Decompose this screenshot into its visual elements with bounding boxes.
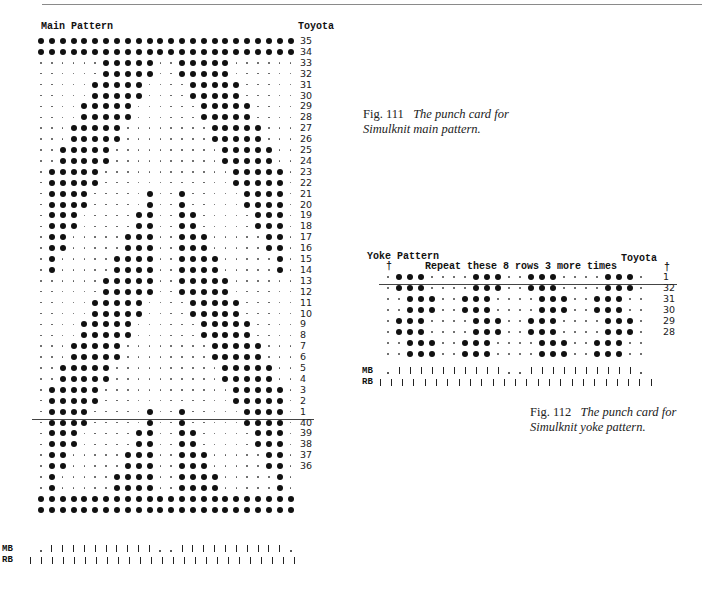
unpunched-position bbox=[69, 461, 79, 471]
unpunched-position bbox=[166, 123, 176, 133]
unpunched-position bbox=[242, 254, 252, 264]
unpunched-position bbox=[199, 374, 209, 384]
unpunched-position bbox=[220, 232, 230, 242]
punched-hole bbox=[145, 287, 155, 297]
unpunched-position bbox=[134, 341, 144, 351]
punched-hole bbox=[416, 272, 426, 282]
needle-bar-mark bbox=[36, 555, 46, 565]
unpunched-position bbox=[155, 80, 165, 90]
unpunched-position bbox=[112, 418, 122, 428]
unpunched-position bbox=[166, 461, 176, 471]
unpunched-position bbox=[123, 363, 133, 373]
unpunched-position bbox=[134, 407, 144, 417]
unpunched-position bbox=[36, 396, 46, 406]
needle-bar-mark bbox=[646, 377, 656, 387]
unpunched-position bbox=[166, 298, 176, 308]
punched-hole bbox=[47, 439, 57, 449]
unpunched-position bbox=[449, 272, 459, 282]
unpunched-position bbox=[220, 200, 230, 210]
unpunched-position bbox=[210, 385, 220, 395]
punched-hole bbox=[625, 272, 635, 282]
yoke-mb-label: MB bbox=[362, 366, 373, 376]
unpunched-position bbox=[275, 80, 285, 90]
punched-hole bbox=[134, 505, 144, 515]
unpunched-position bbox=[581, 305, 591, 315]
punched-hole bbox=[112, 341, 122, 351]
punched-hole bbox=[199, 232, 209, 242]
unpunched-position bbox=[383, 327, 393, 337]
punched-hole bbox=[123, 494, 133, 504]
unpunched-position bbox=[177, 167, 187, 177]
unpunched-position bbox=[47, 352, 57, 362]
unpunched-position bbox=[286, 123, 296, 133]
punched-hole bbox=[220, 374, 230, 384]
unpunched-position bbox=[220, 450, 230, 460]
punched-hole bbox=[123, 330, 133, 340]
punched-hole bbox=[188, 243, 198, 253]
unpunched-position bbox=[570, 349, 580, 359]
punched-hole bbox=[592, 349, 602, 359]
unpunched-position bbox=[155, 134, 165, 144]
punched-hole bbox=[199, 287, 209, 297]
punched-hole bbox=[58, 450, 68, 460]
unpunched-position bbox=[199, 341, 209, 351]
punched-hole bbox=[188, 450, 198, 460]
unpunched-position bbox=[69, 309, 79, 319]
unpunched-position bbox=[36, 69, 46, 79]
punched-hole bbox=[112, 47, 122, 57]
punched-hole bbox=[603, 272, 613, 282]
punched-hole bbox=[188, 69, 198, 79]
punched-hole bbox=[199, 254, 209, 264]
punched-hole bbox=[220, 47, 230, 57]
unpunched-position bbox=[36, 407, 46, 417]
unpunched-position bbox=[90, 407, 100, 417]
unpunched-position bbox=[636, 338, 646, 348]
unpunched-position bbox=[570, 316, 580, 326]
punched-hole bbox=[47, 210, 57, 220]
unpunched-position bbox=[47, 101, 57, 111]
punched-hole bbox=[145, 439, 155, 449]
unpunched-position bbox=[264, 101, 274, 111]
unpunched-position bbox=[383, 338, 393, 348]
needle-bar-mark bbox=[493, 365, 503, 375]
punched-hole bbox=[242, 319, 252, 329]
unpunched-position bbox=[123, 428, 133, 438]
punched-hole bbox=[112, 69, 122, 79]
unpunched-position bbox=[210, 418, 220, 428]
punched-hole bbox=[47, 36, 57, 46]
punched-hole bbox=[264, 47, 274, 57]
unpunched-position bbox=[199, 363, 209, 373]
unpunched-position bbox=[155, 319, 165, 329]
punched-hole bbox=[264, 505, 274, 515]
punched-hole bbox=[264, 243, 274, 253]
punched-hole bbox=[286, 36, 296, 46]
unpunched-position bbox=[166, 189, 176, 199]
punched-hole bbox=[101, 134, 111, 144]
unpunched-position bbox=[559, 272, 569, 282]
punched-hole bbox=[210, 330, 220, 340]
unpunched-position bbox=[242, 210, 252, 220]
needle-bar-mark bbox=[253, 543, 263, 553]
punched-hole bbox=[526, 272, 536, 282]
punched-hole bbox=[69, 428, 79, 438]
punched-hole bbox=[134, 80, 144, 90]
unpunched-position bbox=[264, 309, 274, 319]
punched-hole bbox=[199, 112, 209, 122]
row-number: 36 bbox=[300, 461, 312, 471]
unpunched-position bbox=[155, 156, 165, 166]
unpunched-position bbox=[36, 330, 46, 340]
needle-bar-mark bbox=[79, 543, 89, 553]
unpunched-position bbox=[286, 232, 296, 242]
unpunched-position bbox=[166, 483, 176, 493]
punched-hole bbox=[90, 134, 100, 144]
needle-bar-mark bbox=[278, 555, 288, 565]
unpunched-position bbox=[36, 145, 46, 155]
punched-hole bbox=[603, 349, 613, 359]
unpunched-position bbox=[493, 305, 503, 315]
needle-bar-mark bbox=[256, 555, 266, 565]
punched-hole bbox=[275, 385, 285, 395]
punched-hole bbox=[123, 243, 133, 253]
unpunched-position bbox=[188, 341, 198, 351]
unpunched-position bbox=[177, 123, 187, 133]
unpunched-position bbox=[166, 330, 176, 340]
